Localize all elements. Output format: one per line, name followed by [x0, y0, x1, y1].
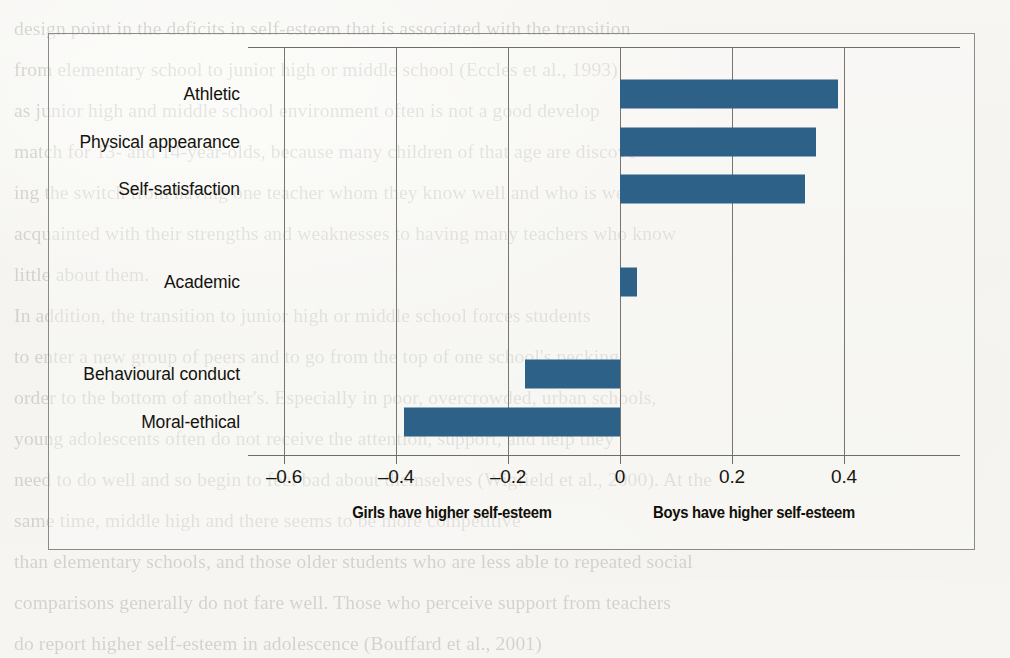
bleed-through-line: do report higher self-esteem in adolesce… [0, 623, 1010, 658]
figure-frame [48, 33, 975, 550]
bleed-through-line: comparisons generally do not fare well. … [0, 582, 1010, 623]
